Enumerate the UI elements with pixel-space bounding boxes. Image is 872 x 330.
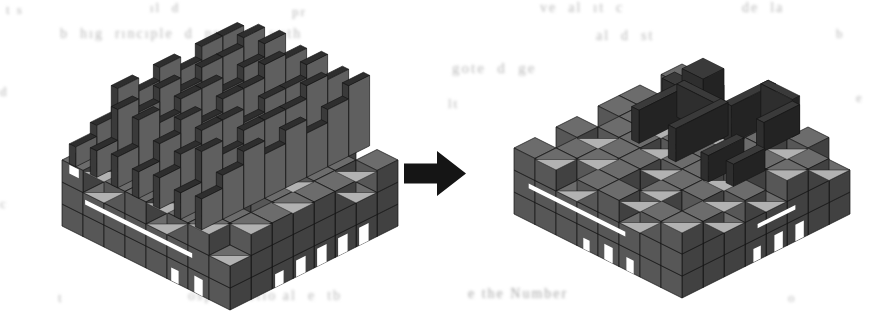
transform-arrow-icon [404,151,466,196]
left-voxel-structure [62,23,398,311]
figure-canvas [0,0,872,330]
scanned-figure-page: t sıl dprve al ıt cde lab hıg rıncıple d… [0,0,872,330]
right-voxel-structure [514,58,850,298]
